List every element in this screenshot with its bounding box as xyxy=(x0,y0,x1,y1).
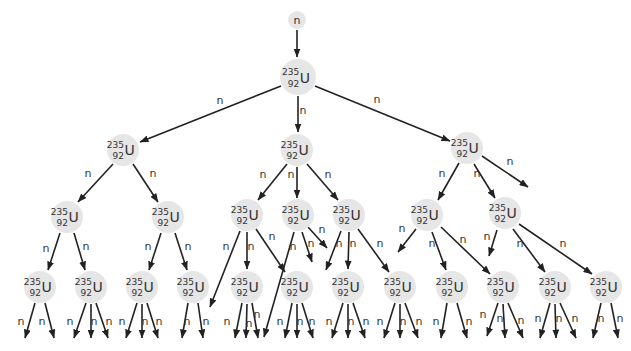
neutron-label: n xyxy=(556,312,563,325)
element-symbol: U xyxy=(454,279,464,295)
neutron-label: n xyxy=(145,240,152,253)
neutron-label: n xyxy=(39,315,46,328)
element-symbol: U xyxy=(299,142,309,158)
uranium-235-nucleus: 23592U xyxy=(281,271,313,303)
uranium-235-nucleus: 23592U xyxy=(177,271,209,303)
uranium-235-nucleus: 23592U xyxy=(411,199,443,231)
mass-number: 235 xyxy=(75,277,92,287)
neutron-label: n xyxy=(326,315,333,328)
element-symbol: U xyxy=(69,209,79,225)
element-symbol: U xyxy=(429,207,439,223)
atomic-number: 92 xyxy=(288,216,299,226)
element-symbol: U xyxy=(557,279,567,295)
atomic-number: 92 xyxy=(288,79,299,89)
mass-number: 235 xyxy=(333,205,350,215)
element-symbol: U xyxy=(93,279,103,295)
mass-number: 235 xyxy=(107,140,124,150)
neutron-label: n xyxy=(254,308,261,321)
neutron-label: n xyxy=(535,312,542,325)
element-symbol: U xyxy=(42,279,52,295)
atomic-number: 92 xyxy=(183,288,194,298)
mass-number: 235 xyxy=(590,277,607,287)
atomic-number: 92 xyxy=(338,288,349,298)
atomic-number: 92 xyxy=(132,288,143,298)
uranium-235-nucleus: 23592U xyxy=(51,201,83,233)
uranium-235-nucleus: 23592U xyxy=(107,134,139,166)
uranium-235-nucleus: 23592U xyxy=(231,271,263,303)
uranium-235-nucleus: 23592U xyxy=(489,197,521,229)
mass-number: 235 xyxy=(384,277,401,287)
neutron-label: n xyxy=(560,237,567,250)
uranium-235-nucleus: 23592U xyxy=(280,59,316,95)
element-symbol: U xyxy=(195,279,205,295)
neutron-label: n xyxy=(308,237,315,250)
mass-number: 235 xyxy=(152,207,169,217)
atomic-number: 92 xyxy=(30,288,41,298)
neutron-label: n xyxy=(400,315,407,328)
mass-number: 235 xyxy=(332,277,349,287)
uranium-235-nucleus: 23592U xyxy=(281,134,313,166)
element-symbol: U xyxy=(507,205,517,221)
mass-number: 235 xyxy=(231,277,248,287)
uranium-235-nucleus: 23592U xyxy=(231,199,263,231)
neutron-label: n xyxy=(260,168,267,181)
neutron-label: n xyxy=(217,94,224,107)
uranium-235-nucleus: 23592U xyxy=(590,271,622,303)
neutron-label: n xyxy=(85,167,92,180)
atomic-number: 92 xyxy=(390,288,401,298)
neutron-label: n xyxy=(269,230,276,243)
atomic-number: 92 xyxy=(81,288,92,298)
neutron-label: n xyxy=(223,240,230,253)
neutron-label: n xyxy=(474,167,481,180)
atomic-number: 92 xyxy=(237,216,248,226)
neutron-label: n xyxy=(377,315,384,328)
element-symbol: U xyxy=(505,279,515,295)
mass-number: 235 xyxy=(24,277,41,287)
neutron-label: n xyxy=(433,315,440,328)
mass-number: 235 xyxy=(282,205,299,215)
neutron-label: n xyxy=(377,237,384,250)
element-symbol: U xyxy=(350,279,360,295)
atomic-number: 92 xyxy=(493,288,504,298)
incoming-neutron: n xyxy=(288,11,306,29)
uranium-235-nucleus: 23592U xyxy=(333,199,365,231)
neutron-label: n xyxy=(374,93,381,106)
mass-number: 235 xyxy=(281,277,298,287)
neutron-label: n xyxy=(18,315,25,328)
atomic-number: 92 xyxy=(287,288,298,298)
neutron-label: n xyxy=(480,308,487,321)
atomic-number: 92 xyxy=(237,288,248,298)
atomic-number: 92 xyxy=(545,288,556,298)
atomic-number: 92 xyxy=(287,151,298,161)
mass-number: 235 xyxy=(177,277,194,287)
neutron-label: n xyxy=(518,314,525,327)
uranium-235-nucleus: 23592U xyxy=(332,271,364,303)
neutron-label: n xyxy=(319,223,326,236)
neutron-label: n xyxy=(598,312,605,325)
neutron-label: n xyxy=(224,315,231,328)
mass-number: 235 xyxy=(487,277,504,287)
element-symbol: U xyxy=(249,279,259,295)
neutron-label: n xyxy=(297,315,304,328)
neutron-label: n xyxy=(484,230,491,243)
element-symbol: U xyxy=(299,279,309,295)
neutron-label: n xyxy=(497,312,504,325)
atomic-number: 92 xyxy=(158,218,169,228)
neutron-label: n xyxy=(300,104,307,117)
neutron-label: n xyxy=(142,315,149,328)
neutron-label: n xyxy=(399,222,406,235)
element-symbol: U xyxy=(125,142,135,158)
neutron-label: n xyxy=(184,315,191,328)
neutron-label: n xyxy=(246,317,253,330)
uranium-235-nucleus: 23592U xyxy=(384,271,416,303)
atomic-number: 92 xyxy=(417,216,428,226)
neutron-label: n xyxy=(429,237,436,250)
element-symbol: U xyxy=(249,207,259,223)
neutron-label: n xyxy=(119,315,126,328)
neutron-label: n xyxy=(350,237,357,250)
mass-number: 235 xyxy=(436,277,453,287)
atomic-number: 92 xyxy=(495,214,506,224)
neutron-label: n xyxy=(288,168,295,181)
element-symbol: U xyxy=(144,279,154,295)
uranium-235-nucleus: 23592U xyxy=(539,271,571,303)
